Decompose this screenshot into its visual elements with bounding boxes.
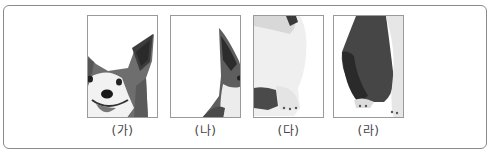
corgi-body-image — [334, 16, 404, 118]
corgi-face-image — [88, 16, 158, 118]
panel-da-image — [253, 15, 324, 118]
panel-na-image — [170, 15, 241, 118]
panel-ga-image — [87, 15, 158, 118]
panel-na-label: (나) — [170, 121, 241, 138]
panel-ra-image — [333, 15, 404, 118]
corgi-ear-image — [171, 16, 241, 118]
figure-frame — [3, 5, 487, 149]
panel-ra-label: (라) — [333, 121, 404, 138]
panel-da-label: (다) — [253, 121, 324, 138]
panel-ga-label: (가) — [87, 121, 158, 138]
corgi-chest-image — [254, 16, 323, 118]
